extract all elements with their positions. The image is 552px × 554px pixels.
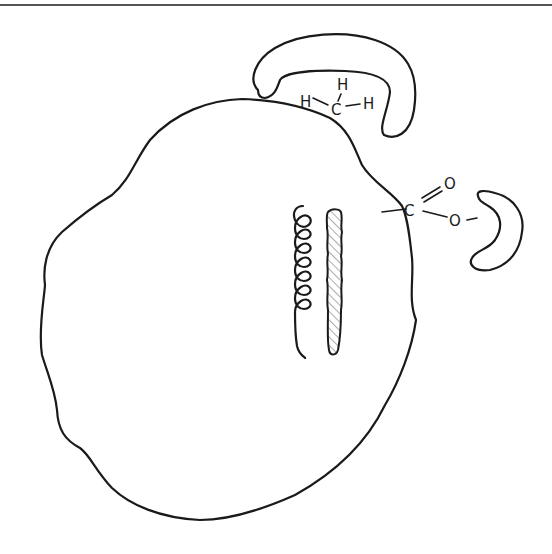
bond: [313, 98, 328, 105]
atom-o-single: O: [449, 212, 461, 230]
methane-molecule: H H C H: [300, 76, 374, 119]
atom-h-right: H: [363, 95, 374, 113]
bond: [467, 218, 477, 220]
atom-o-double: O: [444, 175, 456, 193]
beta-strand: [327, 209, 342, 354]
atom-h-top: H: [337, 76, 348, 94]
bond: [423, 211, 447, 217]
bond: [338, 94, 341, 101]
diagram-canvas: H H C H C O O: [0, 0, 552, 554]
atom-h-left: H: [300, 93, 311, 111]
bond: [346, 104, 360, 106]
bond: [382, 209, 406, 212]
double-bond-b: [424, 191, 442, 202]
atom-c: C: [331, 101, 341, 119]
atom-c-carboxyl: C: [404, 202, 414, 220]
small-crescent: [471, 191, 523, 270]
alpha-helix: [294, 206, 311, 358]
carboxyl-group: C O O: [382, 175, 477, 230]
protein-outline: [41, 99, 416, 520]
double-bond-a: [422, 187, 440, 198]
